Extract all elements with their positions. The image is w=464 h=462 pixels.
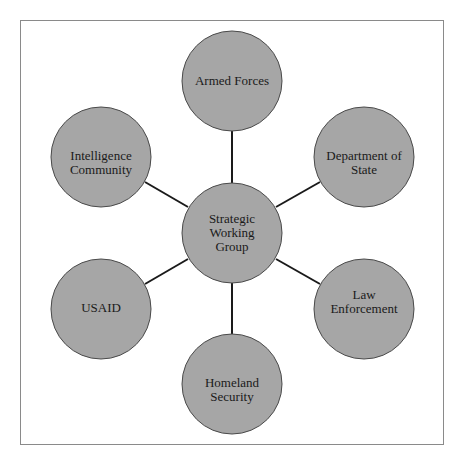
edge-department-of-state — [276, 182, 320, 207]
node-label-line: Enforcement — [314, 302, 414, 316]
node-label-line: Law — [314, 288, 414, 302]
node-label-line: Armed Forces — [182, 74, 282, 88]
node-label-line: Department of — [314, 149, 414, 163]
edge-law-enforcement — [276, 259, 320, 284]
node-label-line: Security — [182, 390, 282, 404]
node-label-line: USAID — [51, 301, 151, 315]
edge-usaid — [145, 259, 188, 284]
edge-intelligence-community — [145, 182, 188, 207]
node-label-line: Community — [51, 163, 151, 177]
node-label-line: Intelligence — [51, 149, 151, 163]
node-label-line: State — [314, 163, 414, 177]
hub-label: Strategic Working Group — [182, 212, 282, 254]
law-enforcement-label: Law Enforcement — [314, 288, 414, 316]
hub-label-line: Working — [182, 226, 282, 240]
homeland-security-label: Homeland Security — [182, 376, 282, 404]
intelligence-community-label: Intelligence Community — [51, 149, 151, 177]
hub-label-line: Strategic — [182, 212, 282, 226]
usaid-label: USAID — [51, 301, 151, 315]
armed-forces-label: Armed Forces — [182, 74, 282, 88]
node-label-line: Homeland — [182, 376, 282, 390]
hub-label-line: Group — [182, 240, 282, 254]
department-of-state-label: Department of State — [314, 149, 414, 177]
